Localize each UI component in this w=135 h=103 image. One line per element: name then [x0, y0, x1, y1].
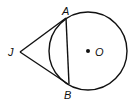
tangent-jb — [20, 52, 68, 84]
label-j: J — [7, 46, 14, 58]
label-b: B — [64, 89, 71, 101]
center-point-o — [86, 49, 90, 53]
tangent-ja — [20, 18, 66, 52]
chord-ab — [66, 18, 69, 84]
geometry-diagram: A B J O — [0, 0, 135, 103]
label-o: O — [95, 46, 104, 58]
label-a: A — [61, 5, 69, 17]
